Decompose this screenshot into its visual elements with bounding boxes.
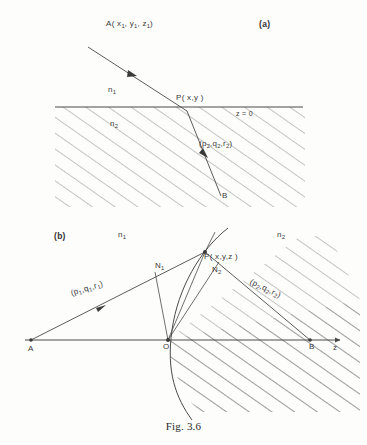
panel-a-drawing (55, 47, 305, 207)
panel-b-normal-1-label: N1 (155, 262, 164, 272)
panel-b-label: (b) (54, 232, 66, 241)
panel-a-source-end: ) (150, 19, 153, 28)
panel-a-medium-lower: n2 (110, 120, 118, 130)
figure-caption: Fig. 3.6 (0, 420, 367, 432)
panel-a-source-text: A( x (106, 19, 121, 28)
panel-b-point-o-label: O (163, 343, 170, 351)
panel-b-normal-n1 (155, 272, 168, 340)
panel-a-label: (a) (259, 20, 270, 29)
panel-a-plane-label: z = 0 (236, 110, 253, 117)
panel-a-incident-ray (88, 47, 187, 111)
panel-a-n1-sub: 1 (113, 89, 116, 95)
figure-drawing (0, 0, 367, 445)
panel-a-endpoint-b: B (222, 192, 228, 200)
panel-b-n1-normal-sub: 1 (161, 265, 164, 271)
panel-a-interface-point-label: P( x,y ) (176, 94, 204, 102)
panel-b-n1-sub: 1 (123, 234, 126, 240)
panel-a-source-mid1: , y (125, 19, 134, 28)
panel-a-dir-end: ) (229, 139, 232, 148)
panel-b-medium-right: n2 (277, 231, 285, 241)
panel-b-normal-2-label: N2 (212, 266, 221, 276)
panel-a-source-mid2: , z (137, 19, 146, 28)
panel-b-n2-normal-sub: 2 (218, 269, 221, 275)
figure-container: (a) A( x1, y1, z1) n1 n2 P( x,y ) z = 0 … (0, 0, 367, 445)
panel-b-point-b-label: B (309, 343, 315, 351)
panel-a-hatched-medium (55, 107, 305, 207)
panel-a-n2-sub: 2 (115, 123, 118, 129)
panel-b-point-a-label: A (28, 345, 34, 353)
panel-b-n2-sub: 2 (282, 234, 285, 240)
panel-b-incident-ray (31, 252, 205, 340)
panel-a-direction-cosines: (p2,q2,r2) (199, 140, 232, 150)
panel-b-interface-point-label: P( x,y,z ) (204, 253, 238, 261)
panel-b-point-a-marker (29, 338, 33, 342)
panel-b-drawing (25, 228, 360, 420)
panel-a-dir-text: (p (199, 139, 207, 148)
panel-b-medium-left: n1 (118, 231, 126, 241)
panel-a-source-label: A( x1, y1, z1) (106, 20, 153, 30)
panel-b-z-axis-label: z (333, 344, 337, 352)
panel-a-medium-upper: n1 (108, 86, 116, 96)
panel-a-incident-arrow-icon (127, 70, 137, 77)
